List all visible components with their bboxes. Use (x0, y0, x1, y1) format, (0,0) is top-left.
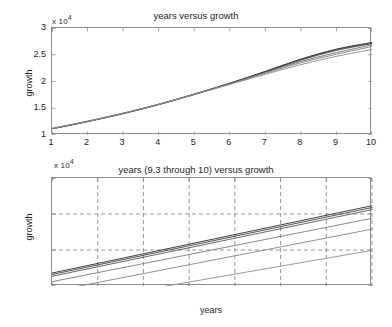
bottom-y-axis-exponent-label: x 104 (54, 161, 74, 170)
x-tick-label: 4 (155, 137, 160, 147)
data-line-line-2 (52, 208, 372, 275)
bottom-y-axis-label: growth (24, 197, 34, 257)
figure-canvas: years versus growth x 104 growth 11.522.… (0, 0, 392, 327)
y-tick-label: 3 (0, 22, 46, 32)
x-tick-label: 9 (333, 137, 338, 147)
top-exponent-power: 4 (68, 14, 72, 21)
y-tick-label: 2 (0, 76, 46, 86)
data-line-line-3 (52, 210, 372, 277)
subplot-bottom: years (9.3 through 10) versus growth x 1… (0, 157, 392, 327)
x-tick-label: 5 (191, 137, 196, 147)
data-line-curve-3 (52, 44, 372, 129)
x-tick-label: 3 (120, 137, 125, 147)
data-series-group (52, 42, 372, 128)
data-line-line-1 (52, 206, 372, 273)
top-y-axis-exponent-label: x 104 (52, 17, 72, 26)
x-tick-label: 7 (262, 137, 267, 147)
x-tick-label: 1 (48, 137, 53, 147)
data-line-line-4 (52, 218, 372, 281)
x-tick-label: 2 (84, 137, 89, 147)
bottom-plot-axes (51, 177, 371, 285)
data-line-line-5 (52, 229, 372, 291)
bottom-x-axis-label: years (51, 305, 371, 315)
x-tick-label: 10 (366, 137, 376, 147)
bottom-exponent-power: 4 (70, 158, 74, 165)
data-line-line-6 (52, 250, 372, 305)
top-plot-axes (51, 27, 371, 134)
y-tick-label: 2.5 (0, 49, 46, 59)
x-tick-label: 8 (297, 137, 302, 147)
x-tick-label: 6 (226, 137, 231, 147)
top-plot-canvas (52, 28, 372, 135)
top-exponent-mantissa: x 10 (52, 17, 68, 26)
bottom-plot-canvas (52, 178, 372, 286)
y-tick-label: 1 (0, 129, 46, 139)
bottom-exponent-mantissa: x 10 (54, 161, 70, 170)
subplot-top: years versus growth x 104 growth 11.522.… (0, 0, 392, 160)
y-tick-label: 1.5 (0, 102, 46, 112)
data-series-group (52, 206, 372, 306)
